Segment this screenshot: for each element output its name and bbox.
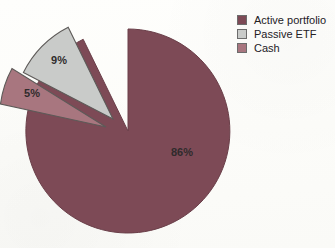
legend-item-passive-etf[interactable]: Passive ETF xyxy=(237,27,333,41)
legend-swatch-active-portfolio xyxy=(237,15,247,25)
chart-legend: Active portfolio Passive ETF Cash xyxy=(237,13,333,55)
legend-label-passive-etf: Passive ETF xyxy=(254,28,316,41)
slice-label-passive-etf: 9% xyxy=(51,54,67,66)
slice-label-cash: 5% xyxy=(24,87,40,99)
legend-label-active-portfolio: Active portfolio xyxy=(254,14,326,27)
legend-swatch-passive-etf xyxy=(237,29,247,39)
legend-item-cash[interactable]: Cash xyxy=(237,41,333,55)
legend-item-active-portfolio[interactable]: Active portfolio xyxy=(237,13,333,27)
legend-label-cash: Cash xyxy=(254,42,280,55)
slice-label-active-portfolio: 86% xyxy=(171,146,193,158)
legend-swatch-cash xyxy=(237,43,247,53)
chart-page: 86% 9% 5% Active portfolio Passive ETF C… xyxy=(0,0,335,248)
